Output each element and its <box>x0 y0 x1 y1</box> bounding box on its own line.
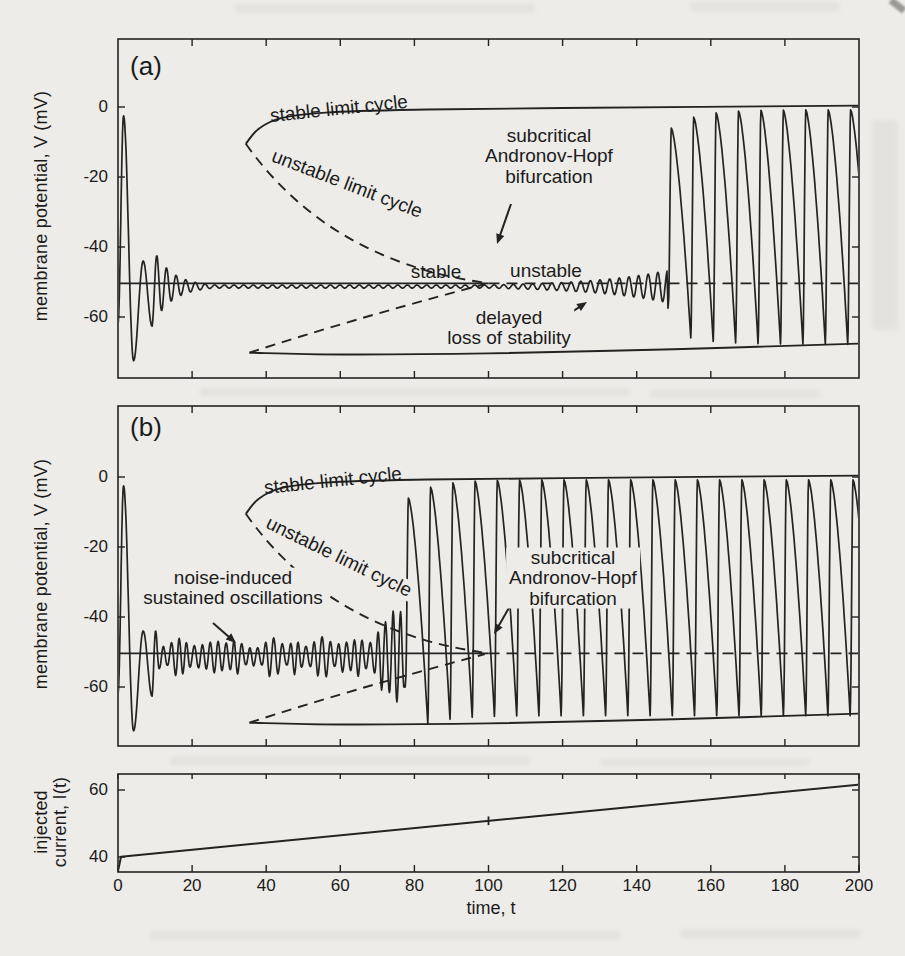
scanned-figure-page: (a) (b) membrane potential, V (mV) membr… <box>0 0 905 956</box>
figure-canvas <box>0 0 905 956</box>
